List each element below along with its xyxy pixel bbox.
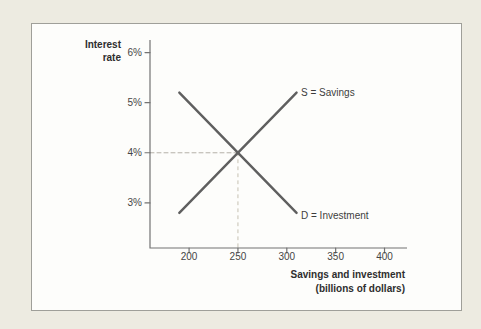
savings-line-label: S = Savings	[301, 87, 355, 98]
x-axis-title-line1: Savings and investment	[291, 268, 405, 282]
investment-line-label: D = Investment	[301, 210, 369, 221]
x-axis-title-line2: (billions of dollars)	[291, 282, 405, 296]
figure-background: Interest rate S = Savings D = Investment…	[0, 0, 481, 329]
x-tick-label: 250	[223, 251, 253, 262]
x-tick-label: 350	[321, 251, 351, 262]
x-tick-label: 400	[370, 251, 400, 262]
x-axis-title: Savings and investment (billions of doll…	[291, 268, 405, 295]
y-tick-label: 3%	[108, 197, 142, 208]
chart-panel: Interest rate S = Savings D = Investment…	[31, 23, 462, 311]
plot-area	[32, 24, 460, 309]
x-tick-label: 200	[174, 251, 204, 262]
y-tick-label: 5%	[108, 97, 142, 108]
y-tick-label: 4%	[108, 147, 142, 158]
y-tick-label: 6%	[108, 47, 142, 58]
x-tick-label: 300	[272, 251, 302, 262]
